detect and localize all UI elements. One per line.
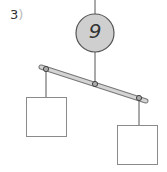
left-knot (43, 66, 48, 71)
left-answer-box[interactable] (26, 97, 67, 137)
right-answer-box[interactable] (117, 125, 158, 165)
center-knot (92, 81, 97, 86)
right-knot (136, 95, 141, 100)
top-weight-value: 9 (76, 19, 114, 43)
